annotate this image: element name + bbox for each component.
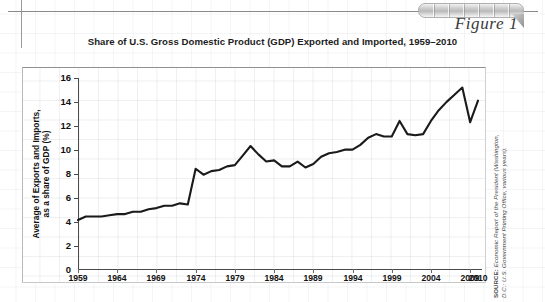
source-note: SOURCE: Economic Report of the President… xyxy=(492,48,507,298)
chart-title: Share of U.S. Gross Domestic Product (GD… xyxy=(0,36,545,47)
figure-page: Figure 1 Share of U.S. Gross Domestic Pr… xyxy=(0,0,545,302)
chart-card: Average of Exports and Imports, as a sha… xyxy=(22,67,486,283)
series-polyline xyxy=(78,88,478,221)
source-prefix: SOURCE: xyxy=(492,269,499,298)
source-line-1: Economic Report of the President (Washin… xyxy=(492,135,499,270)
figure-label: Figure 1 xyxy=(400,14,518,34)
source-line-2: D.C.: U.S. Government Printing Office, v… xyxy=(500,147,507,298)
series-line-chart xyxy=(23,68,487,284)
